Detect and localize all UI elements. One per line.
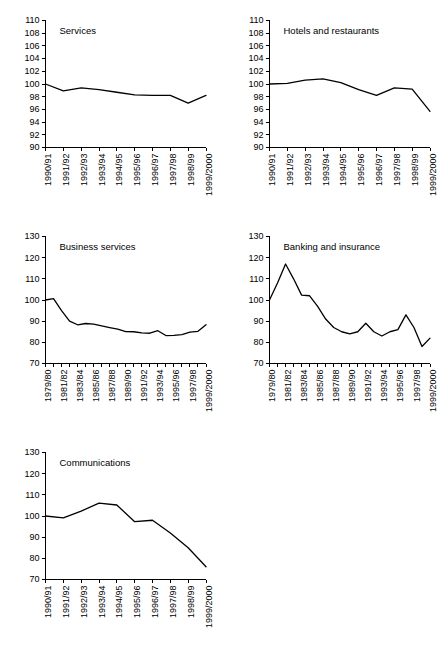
x-tick-label: 1981/82 [283,370,293,403]
y-tick-label: 110 [249,274,263,284]
x-tick-label: 1993/94 [97,586,107,619]
series-line [270,79,431,111]
chart-panel-hotels-and-restaurants: 90929496981001021041061081101990/911991/… [224,0,448,218]
panel-title: Services [60,25,97,36]
y-tick-label: 110 [249,15,263,25]
x-tick-label: 1996/97 [150,586,160,619]
x-tick-label: 1995/96 [395,370,405,403]
y-tick-label: 106 [248,41,263,51]
chart-svg-services: 90929496981001021041061081101990/911991/… [0,0,224,218]
x-tick-label: 1995/96 [171,370,181,403]
chart-svg-communications: 7080901001101201301990/911991/921992/931… [0,432,224,650]
x-tick-label: 1997/98 [168,586,178,619]
chart-svg-hotels-and-restaurants: 90929496981001021041061081101990/911991/… [224,0,448,218]
x-tick-label: 1991/92 [139,370,149,403]
x-tick-label: 1994/95 [114,586,124,619]
y-tick-label: 110 [25,274,39,284]
y-tick-label: 100 [248,295,263,305]
chart-panel-business-services: 7080901001101201301979/801981/821983/841… [0,216,224,434]
x-tick-label: 1997/98 [188,370,198,403]
y-tick-label: 90 [29,142,39,152]
x-tick-label: 1993/94 [155,370,165,403]
x-tick-label: 1992/93 [79,586,89,619]
y-tick-label: 90 [29,532,39,542]
x-tick-label: 1997/98 [392,154,402,187]
y-tick-label: 100 [248,79,263,89]
y-tick-label: 108 [24,28,39,38]
y-tick-label: 90 [253,142,263,152]
y-tick-label: 92 [29,130,39,140]
y-tick-label: 102 [24,66,39,76]
y-tick-label: 104 [248,53,263,63]
chart-svg-business-services: 7080901001101201301979/801981/821983/841… [0,216,224,434]
x-tick-label: 1996/97 [150,154,160,187]
x-tick-label: 1991/92 [285,154,295,187]
y-tick-label: 92 [253,130,263,140]
panel-title: Communications [60,457,131,468]
y-tick-label: 110 [25,15,39,25]
x-tick-label: 1979/80 [43,370,53,403]
y-tick-label: 90 [253,316,263,326]
y-tick-label: 90 [29,316,39,326]
x-tick-label: 1983/84 [75,370,85,403]
x-tick-label: 1994/95 [338,154,348,187]
x-tick-label: 1993/94 [321,154,331,187]
x-tick-label: 1997/98 [168,154,178,187]
x-tick-label: 1999/2000 [204,370,214,413]
y-tick-label: 102 [248,66,263,76]
x-tick-label: 1991/92 [61,586,71,619]
x-tick-label: 1989/90 [347,370,357,403]
y-tick-label: 120 [24,253,39,263]
x-tick-label: 1998/99 [186,586,196,619]
x-tick-label: 1987/88 [107,370,117,403]
x-tick-label: 1999/2000 [204,586,214,629]
y-tick-label: 96 [253,104,263,114]
y-tick-label: 70 [253,358,263,368]
y-tick-label: 104 [24,53,39,63]
y-tick-label: 110 [25,490,39,500]
x-tick-label: 1991/92 [363,370,373,403]
y-tick-label: 130 [248,231,263,241]
y-tick-label: 94 [253,117,263,127]
y-tick-label: 120 [24,469,39,479]
y-tick-label: 98 [253,92,263,102]
x-tick-label: 1985/86 [91,370,101,403]
x-tick-label: 1993/94 [97,154,107,187]
x-tick-label: 1995/96 [132,586,142,619]
x-tick-label: 1990/91 [267,154,277,187]
series-line [270,264,431,347]
y-tick-label: 80 [29,553,39,563]
y-tick-label: 80 [253,337,263,347]
chart-panel-services: 90929496981001021041061081101990/911991/… [0,0,224,218]
panel-title: Banking and insurance [284,241,381,252]
y-tick-label: 80 [29,337,39,347]
x-tick-label: 1998/99 [186,154,196,187]
y-tick-label: 98 [29,92,39,102]
x-tick-label: 1993/94 [379,370,389,403]
y-tick-label: 70 [29,358,39,368]
y-tick-label: 94 [29,117,39,127]
x-tick-label: 1998/99 [410,154,420,187]
series-line [46,299,207,336]
x-tick-label: 1999/2000 [428,370,438,413]
series-line [46,503,207,567]
y-tick-label: 106 [24,41,39,51]
y-tick-label: 130 [24,447,39,457]
x-tick-label: 1995/96 [132,154,142,187]
x-tick-label: 1999/2000 [428,154,438,197]
chart-svg-banking-and-insurance: 7080901001101201301979/801981/821983/841… [224,216,448,434]
x-tick-label: 1995/96 [356,154,366,187]
y-tick-label: 130 [24,231,39,241]
x-tick-label: 1987/88 [331,370,341,403]
x-tick-label: 1990/91 [43,154,53,187]
y-tick-label: 96 [29,104,39,114]
chart-panel-banking-and-insurance: 7080901001101201301979/801981/821983/841… [224,216,448,434]
x-tick-label: 1992/93 [79,154,89,187]
y-tick-label: 100 [24,295,39,305]
x-tick-label: 1979/80 [267,370,277,403]
panel-title: Business services [60,241,136,252]
chart-panel-communications: 7080901001101201301990/911991/921992/931… [0,432,224,650]
x-tick-label: 1985/86 [315,370,325,403]
x-tick-label: 1997/98 [412,370,422,403]
y-tick-label: 108 [248,28,263,38]
